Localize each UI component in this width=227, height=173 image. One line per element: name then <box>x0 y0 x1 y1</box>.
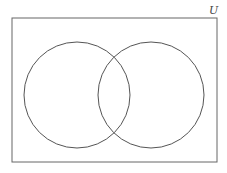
right-set-circle <box>98 42 204 148</box>
venn-diagram: U <box>0 0 227 173</box>
universal-set-label: U <box>209 4 219 17</box>
left-set-circle <box>24 42 130 148</box>
universal-set-rectangle <box>12 18 217 162</box>
